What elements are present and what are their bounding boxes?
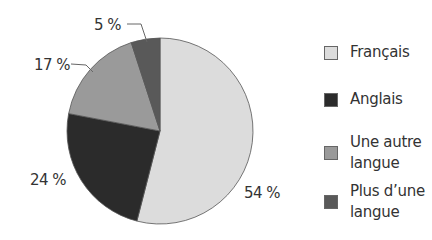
legend-label-anglais: Anglais	[350, 89, 403, 110]
legend-item-francais: Français	[324, 42, 409, 63]
label-francais-pct: 54 %	[244, 184, 280, 202]
legend-item-anglais: Anglais	[324, 89, 403, 110]
legend-swatch-plus	[324, 195, 338, 209]
legend-item-autre: Une autre langue	[324, 132, 421, 174]
legend-label-plus-line2: langue	[350, 203, 399, 221]
label-autre-pct: 17 %	[34, 56, 70, 74]
legend-label-autre-line2: langue	[350, 154, 399, 172]
pie-slices	[67, 38, 253, 224]
legend-label-autre: Une autre langue	[350, 132, 421, 174]
legend-label-francais: Français	[350, 42, 409, 63]
legend-swatch-autre	[324, 146, 338, 160]
legend-label-autre-line1: Une autre	[350, 133, 421, 151]
legend-label-plus-line1: Plus d’une	[350, 182, 425, 200]
label-plus-pct: 5 %	[94, 16, 121, 34]
legend-label-plus: Plus d’une langue	[350, 181, 425, 223]
legend-swatch-anglais	[324, 93, 338, 107]
legend-item-plus: Plus d’une langue	[324, 181, 425, 223]
legend-swatch-francais	[324, 46, 338, 60]
label-anglais-pct: 24 %	[30, 171, 66, 189]
legend: Français Anglais Une autre langue Plus d…	[324, 0, 432, 240]
